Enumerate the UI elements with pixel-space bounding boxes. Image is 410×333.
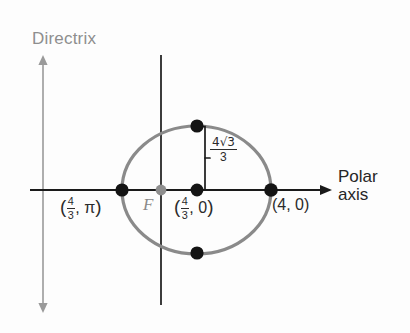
left-vertex-radius-numerator: 4 [67,195,75,209]
left-vertex-dot [115,183,128,196]
left-vertex-separator: , [75,199,84,216]
polar-axis-label-line1: Polar [338,167,378,186]
semi-latus-denominator: 3 [210,150,237,163]
directrix-arrow-up [38,55,47,65]
focal-chord-radius-fraction: 43 [181,195,189,221]
left-vertex-close-paren: ) [95,196,101,217]
semi-latus-bracket [197,127,210,191]
semi-latus-rectum-label: 4√3 3 [210,136,237,164]
left-vertex-open-paren: ( [60,196,66,217]
polar-axis-arrow [320,185,332,195]
focal-chord-label: (43, 0) [174,196,213,222]
focus-dot [156,185,167,196]
focus-label: F [143,196,153,214]
bottom-point-dot [190,246,203,259]
directrix-label: Directrix [32,30,96,48]
focal-chord-close-paren: ) [207,196,213,217]
focal-chord-separator: , [189,199,198,216]
left-vertex-radius-fraction: 43 [67,195,75,221]
right-vertex-label: (4, 0) [272,197,309,214]
focal-chord-radius-denominator: 3 [181,209,189,222]
left-vertex-radius-denominator: 3 [67,209,75,222]
top-point-dot [190,119,203,132]
semi-latus-fraction: 4√3 3 [210,136,237,163]
focal-chord-angle: 0 [198,199,207,216]
directrix-arrow-down [38,303,47,313]
polar-axis-line [30,185,332,195]
focal-chord-dot [191,184,204,197]
focal-chord-open-paren: ( [174,196,180,217]
left-vertex-angle: π [84,199,95,216]
semi-latus-numerator: 4√3 [210,136,237,150]
left-vertex-label: (43, π) [60,196,102,222]
polar-axis-label-line2: axis [338,186,378,204]
polar-conic-figure: Directrix Polar axis F (43, π) (43, 0) (… [0,0,410,333]
right-vertex-dot [264,183,278,197]
directrix-line [38,55,47,313]
polar-axis-label: Polar axis [338,168,378,204]
focal-chord-radius-numerator: 4 [181,195,189,209]
